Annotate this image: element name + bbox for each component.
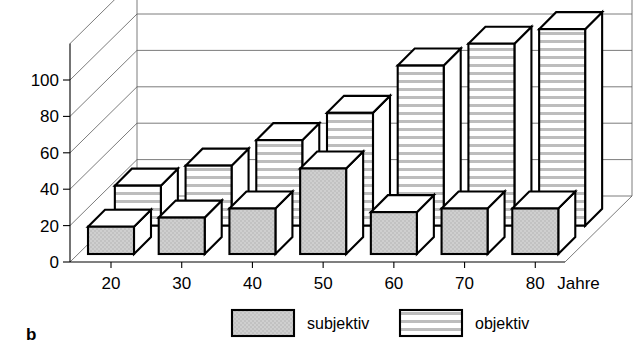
legend-item-objektiv: objektiv — [400, 310, 529, 336]
y-axis-tick-label: 60 — [40, 144, 59, 163]
x-axis-tick-label: 50 — [314, 274, 333, 293]
x-axis-tick-label: 60 — [384, 274, 403, 293]
panel-letter-b: b — [26, 326, 36, 343]
legend-item-subjektiv: subjektiv — [232, 310, 369, 336]
y-axis-tick-label: 100 — [31, 71, 59, 90]
x-axis-tick-label: 40 — [243, 274, 262, 293]
bar-subjektiv-80 — [512, 192, 575, 255]
chart-figure: 020406080100 20304050607080Jahre subjekt… — [0, 0, 639, 358]
bar-subjektiv-60 — [371, 195, 434, 254]
y-axis-tick-label: 80 — [40, 107, 59, 126]
x-axis-tick-label: 30 — [172, 274, 191, 293]
x-axis-tick-label: 80 — [526, 274, 545, 293]
chart-bars — [88, 12, 602, 254]
legend-swatch-objektiv — [400, 310, 462, 336]
x-axis-tick-labels: 20304050607080Jahre — [102, 262, 600, 293]
x-axis-tick-label: 70 — [455, 274, 474, 293]
bar-chart-3d: 020406080100 20304050607080Jahre subjekt… — [0, 0, 639, 358]
x-axis-tick-label: 20 — [102, 274, 121, 293]
legend-swatch-subjektiv — [232, 310, 294, 336]
bar-subjektiv-40 — [229, 192, 292, 255]
bar-subjektiv-50 — [300, 151, 363, 254]
bar-subjektiv-20 — [88, 210, 151, 254]
y-axis-tick-label: 0 — [50, 253, 59, 272]
chart-legend: subjektivobjektiv — [232, 310, 529, 336]
x-axis-unit-label: Jahre — [557, 274, 600, 293]
legend-label: objektiv — [475, 315, 529, 332]
bar-subjektiv-30 — [159, 201, 222, 254]
legend-label: subjektiv — [307, 315, 369, 332]
y-axis-tick-label: 40 — [40, 180, 59, 199]
bar-subjektiv-70 — [442, 192, 505, 255]
y-axis-tick-label: 20 — [40, 217, 59, 236]
